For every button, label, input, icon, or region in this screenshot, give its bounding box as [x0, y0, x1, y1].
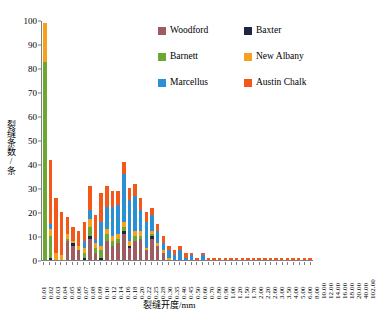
bar-segment: [77, 250, 80, 260]
bar-segment: [224, 258, 227, 260]
stacked-bar[interactable]: [257, 258, 260, 260]
stacked-bar[interactable]: [128, 188, 131, 260]
bar-segment: [71, 246, 74, 260]
bar-series-container: [42, 21, 313, 260]
bar-segment: [88, 186, 91, 210]
stacked-bar[interactable]: [269, 258, 272, 260]
bar-segment: [195, 258, 198, 260]
bar-segment: [133, 241, 136, 260]
bar-slot: [307, 21, 313, 260]
stacked-bar[interactable]: [274, 258, 277, 260]
bar-segment: [139, 239, 142, 261]
bar-segment: [128, 188, 131, 200]
stacked-bar[interactable]: [43, 23, 46, 260]
y-tick-mark: [38, 165, 41, 166]
bar-segment: [229, 258, 232, 260]
stacked-bar[interactable]: [94, 215, 97, 260]
bar-segment: [88, 239, 91, 261]
stacked-bar[interactable]: [218, 258, 221, 260]
bar-segment: [94, 215, 97, 239]
stacked-bar[interactable]: [105, 186, 108, 260]
bar-segment: [105, 234, 108, 241]
stacked-bar[interactable]: [77, 231, 80, 260]
bar-segment: [66, 217, 69, 234]
stacked-bar[interactable]: [297, 258, 300, 260]
bar-segment: [212, 258, 215, 260]
bar-segment: [257, 258, 260, 260]
y-tick-mark: [38, 237, 41, 238]
bar-segment: [274, 258, 277, 260]
stacked-bar[interactable]: [156, 224, 159, 260]
bar-segment: [116, 191, 119, 205]
bar-segment: [66, 241, 69, 260]
stacked-bar[interactable]: [122, 162, 125, 260]
bar-segment: [139, 210, 142, 232]
stacked-bar[interactable]: [145, 212, 148, 260]
stacked-bar[interactable]: [49, 160, 52, 260]
stacked-bar[interactable]: [116, 191, 119, 260]
y-tick-mark: [38, 189, 41, 190]
stacked-bar[interactable]: [224, 258, 227, 260]
stacked-bar[interactable]: [235, 258, 238, 260]
bar-segment: [77, 231, 80, 245]
bar-segment: [280, 258, 283, 260]
stacked-bar[interactable]: [246, 258, 249, 260]
y-tick-mark: [38, 69, 41, 70]
bar-segment: [235, 258, 238, 260]
stacked-bar[interactable]: [229, 258, 232, 260]
stacked-bar[interactable]: [286, 258, 289, 260]
stacked-bar[interactable]: [83, 222, 86, 260]
stacked-bar[interactable]: [167, 246, 170, 260]
stacked-bar[interactable]: [88, 186, 91, 260]
bar-segment: [297, 258, 300, 260]
stacked-bar[interactable]: [212, 258, 215, 260]
stacked-bar[interactable]: [280, 258, 283, 260]
bar-segment: [43, 23, 46, 61]
stacked-bar[interactable]: [308, 258, 311, 260]
bar-segment: [49, 160, 52, 225]
stacked-bar[interactable]: [252, 258, 255, 260]
stacked-bar[interactable]: [71, 227, 74, 260]
stacked-bar[interactable]: [150, 207, 153, 260]
stacked-bar[interactable]: [303, 258, 306, 260]
bar-segment: [54, 253, 57, 260]
stacked-bar[interactable]: [54, 198, 57, 260]
bar-segment: [60, 255, 63, 260]
x-label-slot: 102.00: [370, 265, 377, 299]
bar-segment: [150, 208, 153, 215]
bar-segment: [156, 246, 159, 260]
stacked-bar[interactable]: [195, 258, 198, 260]
stacked-bar[interactable]: [291, 258, 294, 260]
bar-segment: [83, 241, 86, 248]
stacked-bar[interactable]: [111, 191, 114, 260]
stacked-bar[interactable]: [184, 253, 187, 260]
bar-segment: [49, 236, 52, 258]
y-tick-mark: [38, 93, 41, 94]
stacked-bar[interactable]: [162, 236, 165, 260]
y-tick-mark: [38, 21, 41, 22]
bar-segment: [139, 198, 142, 210]
stacked-bar[interactable]: [207, 258, 210, 260]
stacked-bar[interactable]: [99, 193, 102, 260]
bar-segment: [111, 207, 114, 236]
stacked-bar[interactable]: [201, 253, 204, 260]
stacked-bar[interactable]: [190, 253, 193, 260]
stacked-bar[interactable]: [241, 258, 244, 260]
y-axis-title: 裂缝条数/条: [2, 108, 16, 186]
bar-segment: [246, 258, 249, 260]
stacked-bar[interactable]: [173, 250, 176, 260]
bar-segment: [60, 212, 63, 255]
stacked-bar[interactable]: [178, 246, 181, 260]
bar-segment: [99, 250, 102, 257]
bar-segment: [122, 234, 125, 260]
bar-segment: [105, 241, 108, 260]
stacked-bar[interactable]: [139, 198, 142, 260]
stacked-bar[interactable]: [263, 258, 266, 260]
stacked-bar[interactable]: [60, 212, 63, 260]
bar-segment: [178, 250, 181, 260]
stacked-bar[interactable]: [133, 184, 136, 260]
bar-segment: [116, 205, 119, 234]
bar-segment: [122, 162, 125, 174]
stacked-bar[interactable]: [66, 217, 69, 260]
